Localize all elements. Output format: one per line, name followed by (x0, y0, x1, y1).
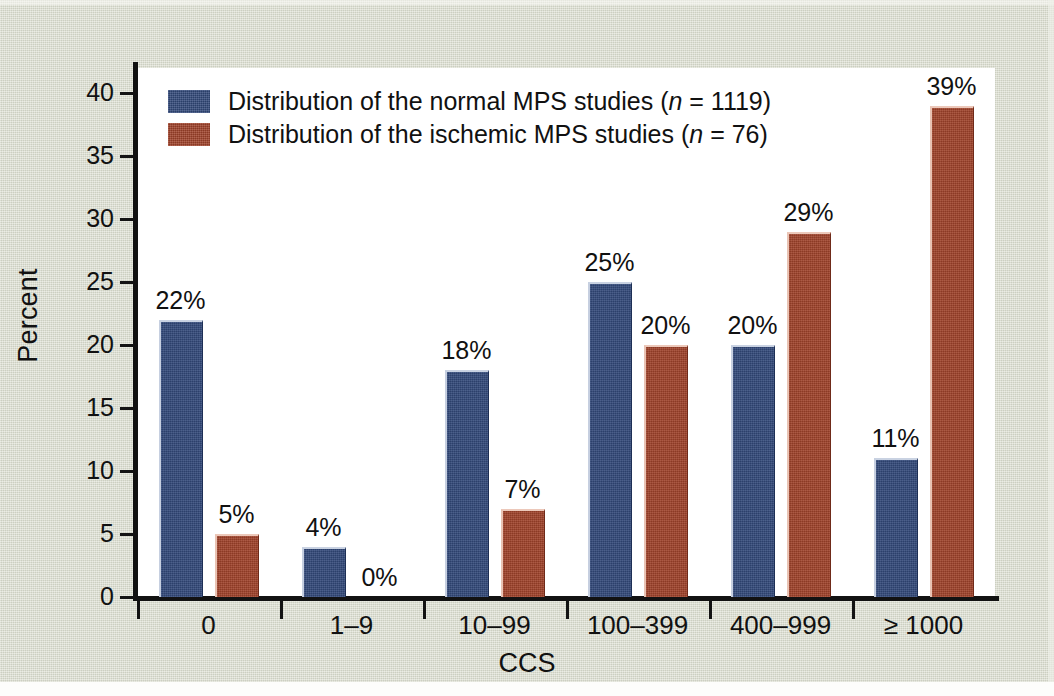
legend-item-label: Distribution of the normal MPS studies (… (228, 89, 771, 114)
bar-value-label: 11% (856, 426, 936, 451)
bar-value-label: 7% (483, 477, 563, 502)
bar-ischemic-5 (930, 106, 974, 597)
y-axis-tick (120, 533, 134, 536)
y-axis-tick-label: 5 (58, 521, 114, 546)
x-axis-category-label: 400–999 (709, 612, 852, 638)
figure-root: 0510152025303540 Percent 22%5%4%0%18%7%2… (0, 0, 1054, 696)
legend-item: Distribution of the normal MPS studies (… (168, 86, 771, 117)
bar-value-label: 20% (713, 313, 793, 338)
y-axis-tick (120, 470, 134, 473)
legend: Distribution of the normal MPS studies (… (168, 86, 771, 152)
bar-ischemic-4 (787, 232, 831, 597)
y-axis-tick-label: 20 (58, 332, 114, 357)
bar-value-label: 39% (912, 74, 992, 99)
x-axis-category-label: 100–399 (566, 612, 709, 638)
bar-ischemic-2 (501, 509, 545, 597)
bar-value-label: 4% (284, 515, 364, 540)
y-axis-tick (120, 281, 134, 284)
y-axis-tick (120, 596, 134, 599)
y-axis-tick-label: 25 (58, 269, 114, 294)
legend-item: Distribution of the ischemic MPS studies… (168, 119, 771, 150)
bar-value-label: 20% (626, 313, 706, 338)
bar-value-label: 0% (340, 565, 420, 590)
bar-value-label: 22% (141, 288, 221, 313)
y-axis-tick-label: 35 (58, 143, 114, 168)
y-axis-tick (120, 155, 134, 158)
x-axis-category-label: 10–99 (423, 612, 566, 638)
y-axis-tick (120, 407, 134, 410)
bar-ischemic-0 (215, 534, 259, 597)
paper-bottom-edge (0, 682, 1054, 696)
y-axis-tick (120, 344, 134, 347)
x-axis-category-label: 0 (137, 612, 280, 638)
x-axis-title: CCS (0, 648, 1054, 679)
bar-normal-4 (731, 345, 775, 597)
bar-value-label: 25% (570, 250, 650, 275)
legend-swatch-ischemic (168, 123, 210, 146)
y-axis-line (133, 62, 138, 601)
bar-value-label: 5% (197, 502, 277, 527)
y-axis-tick-label: 15 (58, 395, 114, 420)
paper-top-edge (0, 0, 1054, 5)
x-axis-category-label: 1–9 (280, 612, 423, 638)
bar-ischemic-3 (644, 345, 688, 597)
x-axis-category-label: ≥ 1000 (852, 612, 995, 638)
y-axis-tick-label: 0 (58, 584, 114, 609)
paper-right-edge (1048, 0, 1054, 696)
bar-normal-0 (159, 320, 203, 597)
bar-normal-5 (874, 458, 918, 597)
legend-item-label: Distribution of the ischemic MPS studies… (228, 122, 768, 147)
bar-value-label: 29% (769, 200, 849, 225)
legend-swatch-normal (168, 90, 210, 113)
y-axis-tick (120, 92, 134, 95)
y-axis-tick-label: 10 (58, 458, 114, 483)
y-axis-title: Percent (13, 216, 44, 416)
bar-value-label: 18% (427, 338, 507, 363)
y-axis-tick (120, 218, 134, 221)
y-axis-tick-label: 40 (58, 80, 114, 105)
y-axis-tick-label: 30 (58, 206, 114, 231)
